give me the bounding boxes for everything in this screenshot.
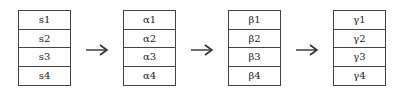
cell-gamma4: γ4 [334, 67, 385, 86]
cell-alpha2: α2 [124, 30, 175, 49]
cell-s3: s3 [19, 48, 70, 67]
cell-gamma1: γ1 [334, 11, 385, 30]
cell-beta3: β3 [229, 48, 280, 67]
stage-beta-box: β1 β2 β3 β4 [228, 10, 281, 86]
cell-alpha3: α3 [124, 48, 175, 67]
stage-alpha-box: α1 α2 α3 α4 [123, 10, 176, 86]
right-arrow-icon [85, 41, 109, 59]
cell-beta4: β4 [229, 67, 280, 86]
stage-gamma-box: γ1 γ2 γ3 γ4 [333, 10, 386, 86]
cell-s2: s2 [19, 30, 70, 49]
cell-beta2: β2 [229, 30, 280, 49]
cell-alpha1: α1 [124, 11, 175, 30]
cell-s4: s4 [19, 67, 70, 86]
cell-alpha4: α4 [124, 67, 175, 86]
cell-gamma3: γ3 [334, 48, 385, 67]
cell-gamma2: γ2 [334, 30, 385, 49]
right-arrow-icon [190, 41, 214, 59]
cell-beta1: β1 [229, 11, 280, 30]
cell-s1: s1 [19, 11, 70, 30]
stage-s-box: s1 s2 s3 s4 [18, 10, 71, 86]
right-arrow-icon [295, 41, 319, 59]
